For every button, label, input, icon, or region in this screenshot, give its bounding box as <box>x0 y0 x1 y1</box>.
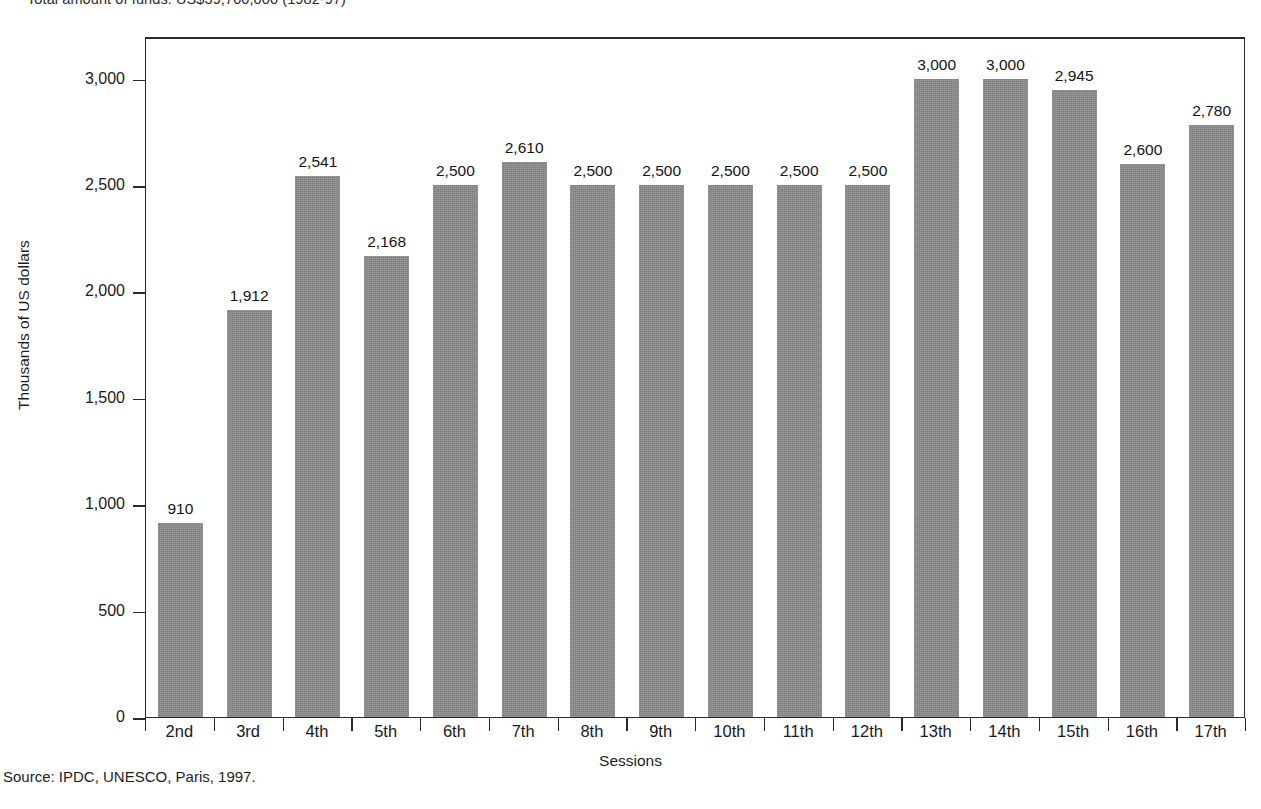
plot-area: 9101,9122,5412,1682,5002,6102,5002,5002,… <box>145 37 1245 718</box>
x-axis-category-label: 14th <box>970 722 1039 741</box>
y-axis-tick-mark <box>133 186 145 188</box>
bar-value-label: 2,500 <box>834 162 903 180</box>
bar-value-label: 3,000 <box>902 56 971 74</box>
bar <box>777 185 822 717</box>
y-axis-tick: 0 <box>0 718 145 719</box>
bar <box>158 523 203 717</box>
bar <box>433 185 478 717</box>
bar <box>845 185 890 717</box>
bar-value-label: 2,500 <box>421 162 490 180</box>
y-axis-tick-label: 2,000 <box>85 282 125 300</box>
x-axis-category-label: 3rd <box>214 722 283 741</box>
x-axis-category-label: 9th <box>626 722 695 741</box>
bar-value-label: 2,541 <box>284 153 353 171</box>
bar-value-label: 2,780 <box>1177 102 1246 120</box>
bar <box>227 310 272 717</box>
bar-value-label: 2,945 <box>1040 67 1109 85</box>
x-axis-category-label: 15th <box>1039 722 1108 741</box>
x-axis-category-label: 10th <box>695 722 764 741</box>
x-axis-category-label: 4th <box>283 722 352 741</box>
bar-value-label: 910 <box>146 500 215 518</box>
x-axis-category-label: 12th <box>833 722 902 741</box>
bar <box>570 185 615 717</box>
bar-value-label: 2,610 <box>490 139 559 157</box>
x-axis-category-label: 6th <box>420 722 489 741</box>
x-axis-category-label: 5th <box>351 722 420 741</box>
y-axis-tick: 500 <box>0 612 145 613</box>
x-axis-category-label: 11th <box>764 722 833 741</box>
bar <box>295 176 340 717</box>
bar <box>1189 125 1234 717</box>
y-axis-tick-mark <box>133 80 145 82</box>
bar <box>502 162 547 717</box>
bar <box>708 185 753 717</box>
bar-value-label: 1,912 <box>215 287 284 305</box>
y-axis-tick-mark <box>133 505 145 507</box>
x-axis-category-label: 17th <box>1176 722 1245 741</box>
y-axis-tick-label: 1,500 <box>85 389 125 407</box>
y-axis-title: Thousands of US dollars <box>15 195 33 455</box>
y-axis-tick-label: 500 <box>98 602 125 620</box>
bar <box>1120 164 1165 717</box>
bar-value-label: 2,600 <box>1109 141 1178 159</box>
bar-value-label: 2,500 <box>559 162 628 180</box>
y-axis-tick-mark <box>133 718 145 720</box>
bar-value-label: 2,500 <box>627 162 696 180</box>
bar <box>983 79 1028 717</box>
bar-value-label: 2,500 <box>696 162 765 180</box>
y-axis-tick: 2,500 <box>0 186 145 187</box>
figure-top-caption: Total amount of funds: US$39,700,000 (19… <box>27 0 346 7</box>
x-axis-category-label: 7th <box>489 722 558 741</box>
bar-value-label: 2,168 <box>352 233 421 251</box>
y-axis-tick-mark <box>133 399 145 401</box>
y-axis-tick-mark <box>133 292 145 294</box>
bar <box>364 256 409 717</box>
x-axis-boundary-tick-mark <box>1245 718 1246 731</box>
x-axis-category-label: 13th <box>901 722 970 741</box>
x-axis-category-label: 16th <box>1108 722 1177 741</box>
source-note: Source: IPDC, UNESCO, Paris, 1997. <box>3 768 256 785</box>
y-axis-tick-label: 3,000 <box>85 70 125 88</box>
bar-value-label: 2,500 <box>765 162 834 180</box>
x-axis-category-label: 8th <box>558 722 627 741</box>
y-axis-tick-label: 1,000 <box>85 495 125 513</box>
bar-value-label: 3,000 <box>971 56 1040 74</box>
bar <box>1052 90 1097 717</box>
bar <box>639 185 684 717</box>
y-axis-tick: 3,000 <box>0 80 145 81</box>
bar <box>914 79 959 717</box>
y-axis-tick: 1,500 <box>0 399 145 400</box>
x-axis-category-label: 2nd <box>145 722 214 741</box>
y-axis-tick-label: 0 <box>116 708 125 726</box>
y-axis-tick-mark <box>133 612 145 614</box>
y-axis-tick-label: 2,500 <box>85 176 125 194</box>
y-axis-tick: 2,000 <box>0 292 145 293</box>
y-axis-tick: 1,000 <box>0 505 145 506</box>
